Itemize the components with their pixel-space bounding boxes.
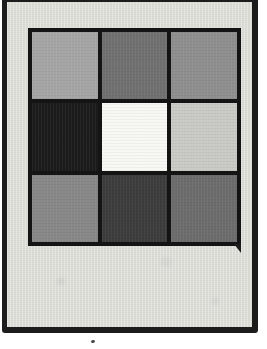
ink-speck: [91, 340, 96, 344]
grid-cell-r3c1: [32, 175, 98, 242]
grid-cell-r2c2: [102, 103, 168, 170]
ink-drip-mark: [234, 244, 241, 253]
grid-cell-r1c2: [102, 32, 168, 99]
grid-cell-r2c1: [32, 103, 98, 170]
grid-cell-r3c3: [171, 175, 237, 242]
grid-cell-r3c2: [102, 175, 168, 242]
grid-cell-r1c3: [171, 32, 237, 99]
figure-frame: [2, 0, 258, 333]
grid-cell-r2c3: [171, 103, 237, 170]
grid-cell-r1c1: [32, 32, 98, 99]
gray-grid: [28, 28, 241, 246]
